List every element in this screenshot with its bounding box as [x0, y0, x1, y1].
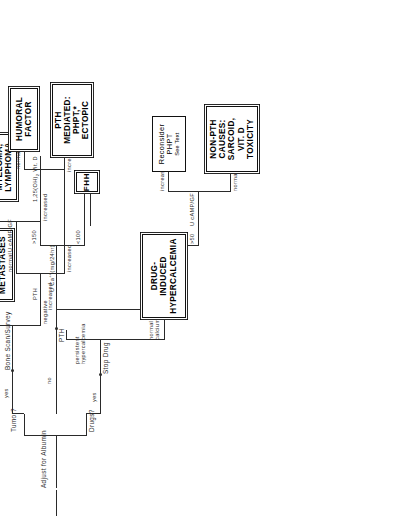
connector-pth-upper-increased-long: [64, 156, 65, 252]
connector-vitd-normal: [24, 152, 25, 170]
connector-drugs-no: [56, 328, 57, 414]
connector-drugs-yes-stub: [86, 413, 100, 414]
diagram-viewport: Adjust for Albumin Tumor? yes Drugs? yes…: [0, 0, 396, 524]
connector-ucamp1-split: [0, 221, 40, 222]
node-stop-drug: Stop Drug: [102, 342, 109, 374]
connector-uca2-gt50: [198, 226, 199, 246]
connector-bonescan-split: [0, 325, 40, 326]
connector-bonescan-negative: [40, 302, 41, 326]
connector-persistent-join: [66, 330, 67, 340]
connector-pth-upper-increased: [64, 252, 65, 274]
outcome-non-pth-causes-line1: NON-PTH: [209, 119, 218, 158]
edge-label-normal-calcium: normalcalcium: [148, 319, 161, 340]
connector-drugs-yes: [100, 374, 101, 414]
connector-tumor-yes: [12, 370, 13, 414]
node-u-camp-gf-upper: U cAMP/GF: [7, 219, 13, 252]
connector-ucamp1-out: [16, 222, 17, 252]
outcome-fhh: FHH: [76, 172, 98, 192]
node-u-camp-gf-lower: U cAMP/GF: [189, 193, 195, 226]
connector-uca1-split: [40, 245, 84, 246]
connector-ucamp2-increased: [168, 172, 169, 192]
connector-to-fhh-b: [90, 192, 91, 226]
node-pth-main: PTH: [58, 328, 65, 342]
outcome-humoral-factor-line1: HUMORAL: [15, 97, 24, 141]
outcome-pth-mediated: PTH MEDIATED: PHPT,* ECTOPIC: [52, 84, 92, 156]
connector-pth-main-out: [56, 310, 57, 328]
outcome-humoral-factor-line2: FACTOR: [24, 101, 33, 136]
connector-to-drugs: [86, 414, 87, 436]
outcome-drug-induced-line2: INDUCED: [159, 256, 168, 295]
edge-label-pth-upper-normal: normal: [7, 253, 13, 272]
connector-uca1-out: [56, 246, 57, 292]
outcome-humoral-factor: HUMORAL FACTOR: [10, 88, 38, 150]
edge-label-tumor-yes: yes: [3, 388, 9, 398]
node-u-ca-increased: U Ca++(mg/24hr): [47, 245, 55, 292]
edge-label-uca-gt150: >150: [31, 230, 37, 244]
connector-pth-increased: [56, 292, 57, 310]
flowchart-stage: Adjust for Albumin Tumor? yes Drugs? yes…: [0, 0, 396, 524]
edge-label-uca-lt100: <100: [75, 230, 81, 244]
edge-label-uca-gt50: >50: [189, 233, 195, 244]
connector-split-tumor-drugs: [24, 435, 86, 436]
connector-uca1-gt150: [40, 226, 41, 246]
outcome-non-pth-causes-line4: VIT. D: [237, 127, 246, 151]
outcome-non-pth-causes-line2: CAUSES:: [218, 120, 227, 159]
edge-label-ucamp1-increased: increased: [42, 194, 48, 221]
connector-ucamp2-out: [198, 192, 199, 226]
connector-tumor-yes-stub: [12, 413, 24, 414]
outcome-non-pth-causes-line5: TOXICITY: [246, 119, 255, 159]
connector-uca1-gt150-long: [40, 156, 41, 226]
node-bone-scan-survey: Bone Scan/Survey: [4, 311, 11, 370]
connector-ucamp2-split: [168, 191, 230, 192]
connector-adjust-out: [56, 436, 57, 488]
node-vitamin-d: 1,25(OH)2 Vit. D: [32, 156, 40, 202]
connector-bonescan-out: [12, 326, 13, 370]
connector-to-tumor: [24, 414, 25, 436]
outcome-pth-mediated-line2: MEDIATED:: [63, 96, 72, 144]
outcome-reconsider-line2: PHPT: [166, 134, 174, 155]
connector-persistent-branch: [100, 340, 101, 364]
outcome-non-pth-causes-line3: SARCOID,: [227, 118, 236, 160]
edge-label-drugs-yes: yes: [91, 392, 97, 402]
connector-to-fhh-a: [84, 192, 85, 226]
outcome-non-pth-causes: NON-PTH CAUSES: SARCOID, VIT. D TOXICITY: [206, 106, 258, 172]
edge-label-persistent-hypercalcemia: persistenthypercalcemia: [74, 323, 87, 364]
node-adjust-for-albumin: Adjust for Albumin: [40, 430, 47, 488]
connector-pth-upper-normal: [16, 252, 17, 274]
edge-label-vitd-normal: normal: [15, 150, 21, 169]
outcome-drug-induced-line3: HYPERCALCEMIA: [169, 238, 178, 313]
edge-label-ucamp2-normal: normal: [232, 172, 238, 191]
connector-ucamp2-normal: [230, 172, 231, 192]
edge-label-pth-upper-increased: increased: [66, 245, 72, 272]
edge-label-no: no: [46, 377, 52, 384]
connector-pth-upper-out: [40, 274, 41, 302]
connector-vitd-increased: [64, 156, 65, 170]
connector-normal-calcium: [164, 318, 165, 340]
connector-uca1-lt100: [84, 226, 85, 246]
connector-root: [56, 490, 57, 516]
node-pth-upper: PTH: [32, 288, 38, 300]
outcome-pth-mediated-line1: PTH: [54, 111, 63, 128]
outcome-drug-induced-hypercalcemia: DRUG- INDUCED HYPERCALCEMIA: [142, 234, 186, 318]
outcome-pth-mediated-line3: PHPT,* ECTOPIC: [72, 88, 90, 152]
outcome-fhh-label: FHH: [83, 173, 92, 191]
outcome-reconsider-phpt: Reconsider PHPT See Text: [152, 116, 186, 172]
outcome-reconsider-line3: See Text: [174, 132, 180, 155]
outcome-drug-induced-line1: DRUG-: [150, 262, 159, 290]
connector-vitd-split: [24, 169, 64, 170]
